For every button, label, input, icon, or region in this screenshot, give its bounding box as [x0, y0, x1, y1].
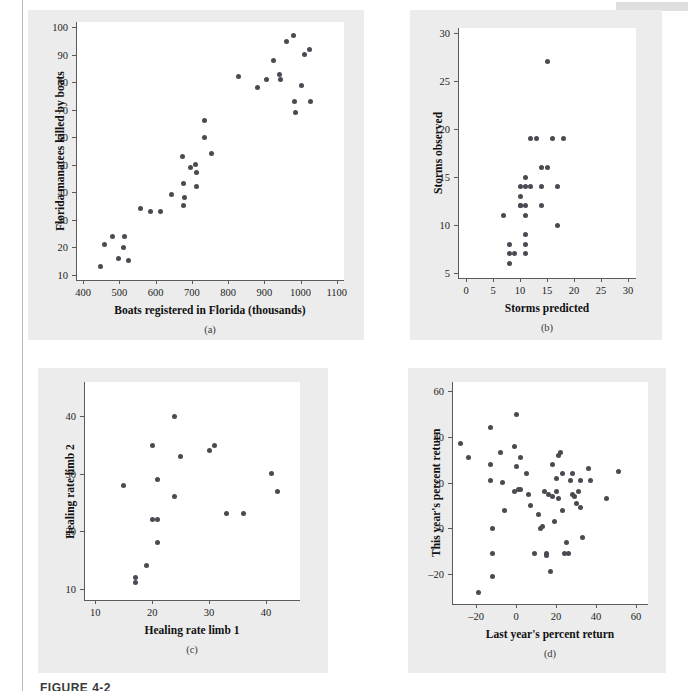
y-axis-title-d: This year's percent return	[430, 429, 442, 557]
x-tick-label-b: 20	[569, 285, 580, 296]
y-tick-a	[72, 165, 76, 166]
data-point	[518, 203, 523, 208]
x-tick-label-c: 10	[90, 607, 101, 618]
y-axis-title-b: Storms observed	[432, 112, 444, 194]
x-tick-label-a: 800	[220, 287, 236, 298]
data-point	[299, 83, 304, 88]
x-tick-a	[83, 280, 84, 284]
data-point	[278, 77, 283, 82]
x-tick-label-c: 30	[204, 607, 215, 618]
x-tick-a	[156, 280, 157, 284]
y-tick-d	[448, 391, 452, 392]
x-tick-c	[266, 600, 267, 604]
x-tick-d	[476, 604, 477, 608]
data-point	[523, 213, 528, 218]
x-tick-label-b: 30	[623, 285, 634, 296]
y-tick-b	[454, 177, 458, 178]
y-axis-title-a: Florida manatees killed by boats	[54, 71, 66, 231]
y-tick-label-b: 25	[424, 75, 450, 86]
data-point	[572, 494, 577, 499]
x-tick-label-d: 60	[631, 611, 642, 622]
x-tick-label-d: 20	[551, 611, 562, 622]
y-tick-a	[72, 137, 76, 138]
data-point	[560, 471, 565, 476]
data-point	[488, 425, 493, 430]
data-point	[604, 496, 609, 501]
data-point	[182, 195, 187, 200]
data-point	[490, 551, 495, 556]
data-point	[490, 526, 495, 531]
data-point	[116, 256, 121, 261]
data-point	[466, 455, 471, 460]
y-tick-a	[72, 82, 76, 83]
plot-area-b	[458, 28, 636, 278]
page-gutter-rule	[22, 0, 23, 691]
y-tick-a	[72, 220, 76, 221]
plot-area-c	[84, 382, 300, 600]
data-point	[560, 508, 565, 513]
y-axis-title-c: Healing rate limb 2	[64, 444, 76, 539]
data-point	[564, 540, 569, 545]
x-tick-c	[152, 600, 153, 604]
data-point	[110, 234, 115, 239]
data-point	[150, 517, 155, 522]
figure-page: 4005006007008009001000110010203040506070…	[0, 0, 696, 691]
data-point	[578, 478, 583, 483]
data-point	[121, 245, 126, 250]
x-tick-b	[520, 278, 521, 282]
data-point	[255, 85, 260, 90]
panel-letter-d: (d)	[544, 648, 556, 659]
data-point	[212, 443, 217, 448]
y-tick-d	[448, 528, 452, 529]
x-tick-label-a: 400	[75, 287, 91, 298]
data-point	[528, 503, 533, 508]
data-point	[526, 492, 531, 497]
data-point	[518, 194, 523, 199]
x-tick-a	[119, 280, 120, 284]
x-tick-label-d: 40	[591, 611, 602, 622]
data-point	[556, 496, 561, 501]
y-tick-label-a: 100	[42, 22, 68, 33]
y-tick-b	[454, 225, 458, 226]
data-point	[550, 136, 555, 141]
x-tick-label-b: 15	[542, 285, 553, 296]
y-tick-label-b: 30	[424, 27, 450, 38]
data-point	[532, 551, 537, 556]
x-tick-label-b: 10	[515, 285, 526, 296]
y-tick-label-a: 20	[42, 242, 68, 253]
data-point	[133, 575, 138, 580]
data-point	[616, 469, 621, 474]
data-point	[561, 136, 566, 141]
data-point	[500, 480, 505, 485]
x-tick-c	[95, 600, 96, 604]
y-tick-c	[80, 416, 84, 417]
data-point	[588, 478, 593, 483]
x-tick-c	[209, 600, 210, 604]
data-point	[271, 58, 276, 63]
y-tick-a	[72, 247, 76, 248]
y-tick-label-d: 60	[418, 386, 444, 397]
x-axis-title-d: Last year's percent return	[486, 628, 614, 640]
x-tick-label-d: 0	[513, 611, 518, 622]
x-tick-b	[601, 278, 602, 282]
data-point	[307, 47, 312, 52]
x-axis-c	[84, 600, 300, 601]
data-point	[518, 184, 523, 189]
data-point	[188, 165, 193, 170]
data-point	[566, 551, 571, 556]
data-point	[576, 489, 581, 494]
y-tick-label-c: 40	[50, 411, 76, 422]
data-point	[207, 448, 212, 453]
data-point	[545, 59, 550, 64]
y-tick-b	[454, 129, 458, 130]
x-tick-b	[466, 278, 467, 282]
x-tick-a	[264, 280, 265, 284]
y-tick-b	[454, 33, 458, 34]
data-point	[550, 494, 555, 499]
x-tick-label-c: 40	[261, 607, 272, 618]
data-point	[98, 264, 103, 269]
data-point	[293, 110, 298, 115]
figure-caption: FIGURE 4-2	[40, 681, 111, 691]
x-tick-label-d: –20	[468, 611, 484, 622]
y-tick-c	[80, 589, 84, 590]
